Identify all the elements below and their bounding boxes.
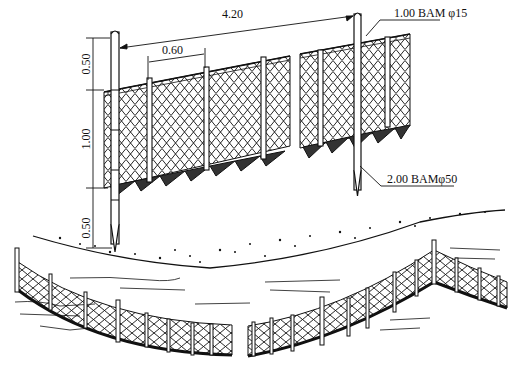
main-post-left <box>111 31 119 252</box>
dimension-intermediate-spacing: 0.60 <box>162 44 183 56</box>
callout-intermediate-post: 1.00 BAM φ15 <box>394 7 467 19</box>
callout-main-post: 2.00 BAMφ50 <box>387 173 457 185</box>
fence-diagram: 4.20 0.60 0.50 1.00 0.50 1.00 BAM φ15 2.… <box>0 0 520 373</box>
dimension-net-height: 1.00 <box>80 129 92 150</box>
plan-fence-left <box>15 248 232 355</box>
dimension-top-height: 0.50 <box>80 54 92 75</box>
dimension-post-spacing: 4.20 <box>222 8 243 20</box>
main-post-right <box>354 13 361 196</box>
dimension-embedment: 0.50 <box>80 218 92 239</box>
